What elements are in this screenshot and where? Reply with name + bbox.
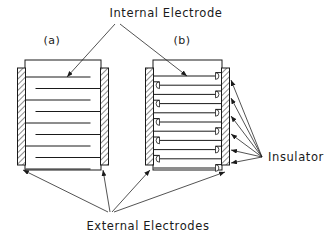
panels-layer: [18, 60, 230, 171]
external-electrode-a-right: [101, 68, 109, 165]
insulator-gap-b-2: [156, 82, 159, 89]
leader-external-electrodes-4: [114, 172, 225, 212]
insulator-gap-b-5: [216, 109, 219, 116]
insulator-gap-b-6: [156, 119, 159, 126]
insulator-gap-b-10: [156, 155, 159, 162]
external-electrode-b-right: [222, 68, 230, 165]
panel-caption-a: (a): [44, 34, 61, 47]
label-insulator: Insulator: [268, 150, 324, 164]
external-electrode-a-left: [18, 68, 26, 165]
label-internal-electrode: Internal Electrode: [109, 6, 222, 20]
annotation-insulator: Insulator: [231, 80, 324, 164]
diagram-canvas: Internal ElectrodeExternal ElectrodesIns…: [0, 0, 334, 240]
panel-caption-b: (b): [173, 34, 190, 47]
leader-insulator-2: [231, 98, 262, 157]
leader-insulator-6: [231, 157, 262, 163]
leader-external-electrodes-1: [23, 170, 108, 212]
insulator-gap-b-11: [216, 165, 219, 172]
leader-external-electrodes-2: [103, 170, 110, 212]
stack-panel-b: [146, 60, 230, 171]
stack-panel-a: [18, 60, 109, 170]
insulator-gap-b-9: [216, 146, 219, 153]
insulator-gap-b-1: [216, 73, 219, 80]
external-electrode-b-left: [146, 68, 154, 165]
multilayer-actuator-diagram: Internal ElectrodeExternal ElectrodesIns…: [0, 0, 334, 240]
insulator-gap-b-8: [156, 137, 159, 144]
label-external-electrodes: External Electrodes: [86, 219, 209, 233]
insulator-gap-b-7: [216, 128, 219, 135]
annotation-external-electrodes: External Electrodes: [23, 170, 225, 233]
insulator-gap-b-4: [156, 100, 159, 107]
insulator-gap-b-3: [216, 91, 219, 98]
